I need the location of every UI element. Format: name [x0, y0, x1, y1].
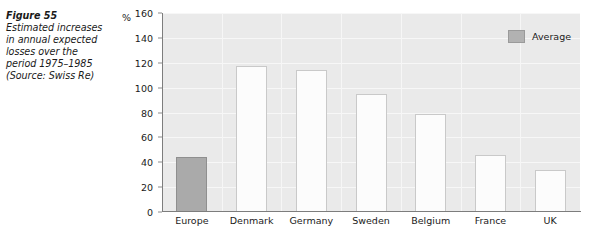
x-axis-tick-label-france: France [475, 215, 507, 226]
figure-caption: Figure 55 Estimated increases in annual … [6, 10, 110, 83]
bar-chart: % 160140120100806040200 EuropeDenmarkGer… [122, 6, 584, 238]
x-axis-tick-label-belgium: Belgium [411, 215, 450, 226]
gridline-vertical [401, 13, 402, 212]
x-axis-tick-labels: EuropeDenmarkGermanySwedenBelgiumFranceU… [162, 215, 580, 235]
y-axis-tick-label: 120 [135, 57, 153, 68]
bar-sweden[interactable] [356, 94, 387, 212]
gridline-horizontal [162, 88, 580, 89]
bar-germany[interactable] [296, 70, 327, 212]
gridline-horizontal [162, 63, 580, 64]
bar-france[interactable] [475, 155, 506, 212]
chart-legend: Average [502, 22, 579, 50]
x-axis-tick-label-europe: Europe [175, 215, 208, 226]
bar-denmark[interactable] [236, 66, 267, 212]
gridline-horizontal [162, 13, 580, 14]
x-axis-tick-label-denmark: Denmark [230, 215, 274, 226]
y-axis-tick-label: 140 [135, 32, 153, 43]
gridline-vertical [461, 13, 462, 212]
gridline-vertical [281, 13, 282, 212]
y-axis-line [162, 13, 163, 212]
y-axis-tick-label: 40 [141, 157, 153, 168]
y-axis-tick-label: 160 [135, 8, 153, 19]
y-axis-tick-label: 20 [141, 182, 153, 193]
y-axis-tick-label: 60 [141, 132, 153, 143]
y-axis-tick-label: 0 [147, 207, 153, 218]
figure-caption-title: Figure 55 [6, 10, 110, 22]
x-axis-tick-label-germany: Germany [289, 215, 333, 226]
x-axis-tick-label-uk: UK [544, 215, 557, 226]
figure-caption-body: Estimated increases in annual expected l… [6, 22, 110, 82]
figure-container: Figure 55 Estimated increases in annual … [0, 0, 590, 241]
bar-belgium[interactable] [415, 114, 446, 212]
legend-swatch-average [508, 30, 525, 43]
y-axis-tick-label: 100 [135, 82, 153, 93]
legend-label-average: Average [532, 31, 571, 42]
bar-uk[interactable] [535, 170, 566, 212]
gridline-vertical [341, 13, 342, 212]
y-axis-tick-labels: 160140120100806040200 [122, 6, 158, 238]
x-axis-tick-label-sweden: Sweden [352, 215, 390, 226]
x-axis-line [162, 211, 581, 212]
gridline-vertical [222, 13, 223, 212]
y-axis-tick-label: 80 [141, 107, 153, 118]
bar-europe[interactable] [176, 157, 207, 212]
